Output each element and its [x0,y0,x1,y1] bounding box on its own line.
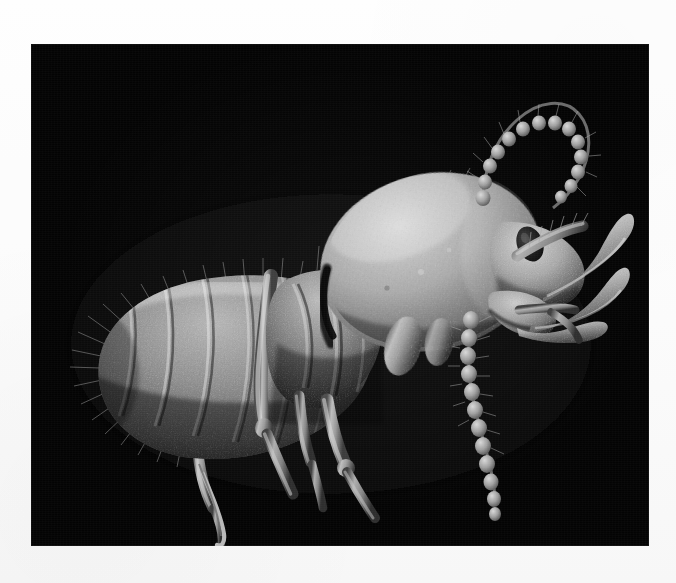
specimen-illustration [31,44,649,546]
page [0,0,676,583]
image-grain-overlay [31,44,649,546]
sem-micrograph-plate [31,44,649,546]
specimen-image [31,44,649,546]
